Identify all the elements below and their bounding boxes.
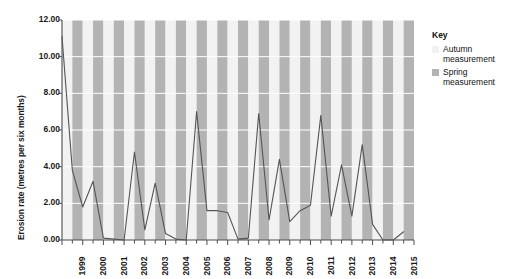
legend-title: Key xyxy=(432,30,518,40)
legend-item-label: Spring measurement xyxy=(443,67,518,87)
legend-swatch-icon xyxy=(432,69,439,76)
legend-item: Autumn measurement xyxy=(432,44,518,64)
legend-swatch-icon xyxy=(432,46,439,53)
erosion-rate-line-chart: Erosion rate (metres per six months) 12.… xyxy=(0,0,520,279)
legend-item-label: Autumn measurement xyxy=(443,44,518,64)
legend-items: Autumn measurementSpring measurement xyxy=(432,44,518,87)
legend: Key Autumn measurementSpring measurement xyxy=(432,30,518,90)
legend-item: Spring measurement xyxy=(432,67,518,87)
